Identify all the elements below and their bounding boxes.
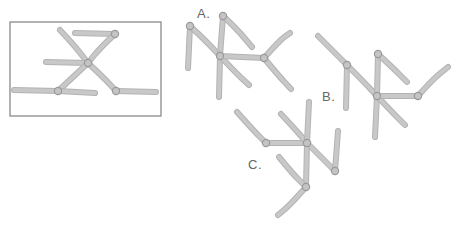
figure-a-branch xyxy=(223,16,252,47)
reference-branch xyxy=(88,63,116,91)
reference-branch xyxy=(58,63,88,91)
figure-c-node xyxy=(303,139,310,146)
figure-b-branch xyxy=(318,36,347,65)
reference-branch xyxy=(88,34,115,63)
figure-c-branch xyxy=(279,157,306,187)
figure-b-node xyxy=(343,61,350,68)
reference-node xyxy=(84,59,91,66)
figure-c-node xyxy=(331,167,338,174)
figure-c-node xyxy=(262,139,269,146)
reference-branch xyxy=(58,91,95,93)
reference-branch xyxy=(46,62,88,63)
figure-a-branch xyxy=(264,33,290,58)
figure-b-branch xyxy=(346,65,347,108)
figure-a-label: A. xyxy=(197,6,210,21)
figure-b-branch xyxy=(347,65,377,96)
reference-branch xyxy=(116,91,156,92)
reference-branch xyxy=(14,90,58,91)
figure-b-branch xyxy=(377,96,405,125)
figure-a-branch xyxy=(188,26,190,68)
reference-node xyxy=(112,87,119,94)
figure-b-node xyxy=(373,92,380,99)
figure-b-node xyxy=(414,92,421,99)
figure-a-branch xyxy=(220,56,264,58)
figure-c-branch xyxy=(281,114,307,143)
figure-a-branch xyxy=(190,26,220,56)
figure-b-branch xyxy=(375,96,377,137)
figure-a-node xyxy=(219,12,226,19)
figure-b-branch xyxy=(418,67,448,96)
figure-c-branch xyxy=(278,187,306,215)
reference-node xyxy=(111,30,118,37)
figure-c-branch xyxy=(237,112,266,143)
figure-a-node xyxy=(260,54,267,61)
figure-c-branch xyxy=(307,102,309,143)
reference-node xyxy=(54,87,61,94)
figure-b-branch xyxy=(378,54,407,82)
figure-a-branch xyxy=(220,56,249,85)
figure-c-node xyxy=(302,183,309,190)
figure-a-node xyxy=(216,52,223,59)
figure-b-branch xyxy=(377,54,378,96)
figure-c-branch xyxy=(307,143,335,171)
reference-branch xyxy=(75,33,115,34)
figure-b-label: B. xyxy=(322,89,335,104)
figure-a xyxy=(186,12,291,97)
figure-b xyxy=(318,36,448,137)
figure-c-branch xyxy=(306,143,307,187)
reference-figure xyxy=(14,30,156,95)
diagram-canvas xyxy=(0,0,461,239)
figure-c-label: C. xyxy=(248,157,262,172)
figure-a-branch xyxy=(264,58,291,89)
figure-b-node xyxy=(374,50,381,57)
figure-a-node xyxy=(186,22,193,29)
figure-a-branch xyxy=(219,56,220,97)
